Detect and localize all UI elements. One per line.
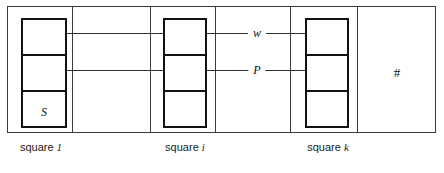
p-label: P (248, 64, 265, 76)
stack-k-divider-1 (307, 54, 347, 56)
p-connector-left-line (34, 70, 257, 71)
stack-square-k (305, 18, 349, 128)
w-connector-left-line (34, 33, 257, 34)
stack-i-divider-2 (165, 90, 205, 92)
caption-square-i-prefix: square (165, 141, 199, 153)
caption-square-1: square 1 (20, 141, 62, 153)
stack-1-divider-1 (23, 54, 65, 56)
stack-k-divider-2 (307, 90, 347, 92)
caption-square-i: square i (165, 141, 205, 153)
stack-1-divider-2 (23, 90, 65, 92)
tape-diagram: w P S # square 1 square i square k (0, 0, 444, 173)
stack-square-i (163, 18, 207, 128)
caption-square-k-index: k (344, 141, 349, 153)
caption-square-k: square k (307, 141, 349, 153)
caption-square-1-index: 1 (57, 141, 63, 153)
stack-1-cell-3-label: S (23, 106, 65, 118)
tape-divider-5 (357, 6, 358, 133)
caption-square-i-index: i (202, 141, 205, 153)
caption-square-1-prefix: square (20, 141, 54, 153)
w-label: w (248, 27, 266, 39)
stack-i-divider-1 (165, 54, 205, 56)
caption-square-k-prefix: square (307, 141, 341, 153)
stack-square-1: S (21, 18, 67, 128)
blank-square-marker: # (394, 66, 401, 79)
